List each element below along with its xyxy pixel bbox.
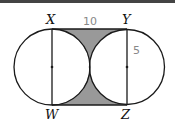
- measure-top: 10: [83, 16, 97, 27]
- left-center-dot: [51, 66, 54, 69]
- measure-radius: 5: [133, 45, 140, 56]
- right-center-dot: [126, 66, 129, 69]
- label-y: Y: [122, 13, 131, 26]
- label-z: Z: [121, 108, 130, 121]
- label-w: W: [45, 108, 58, 121]
- label-x: X: [46, 13, 55, 26]
